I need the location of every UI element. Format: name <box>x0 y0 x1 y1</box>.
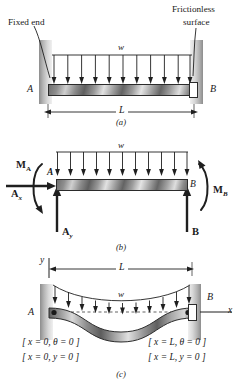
reaction-b-label: B <box>192 227 199 238</box>
support-label-a-left: A <box>27 84 33 94</box>
reaction-ay-symbol: A <box>62 226 70 237</box>
node-label-b-right: B <box>190 180 196 190</box>
load-symbol-c: w <box>117 290 125 299</box>
support-label-a-right: B <box>210 84 216 94</box>
boundary-condition-right-1: [ x = L, θ = 0 ] <box>148 338 206 348</box>
caption-c: (c) <box>0 370 242 379</box>
support-label-c-right: B <box>207 292 213 302</box>
load-symbol-b: w <box>118 141 124 150</box>
boundary-condition-right-2: [ x = L, y = 0 ] <box>148 353 206 363</box>
moment-a-subscript: A <box>26 165 31 173</box>
frictionless-slider-c <box>188 304 197 321</box>
axis-y-label: y <box>40 256 44 266</box>
span-label-c: L <box>116 262 128 272</box>
beam-a <box>48 84 194 96</box>
reaction-ax-symbol: A <box>11 188 19 199</box>
reaction-ax-subscript: x <box>19 194 23 202</box>
reaction-ay-label: Ay <box>62 227 73 240</box>
moment-b-symbol: M <box>213 184 223 195</box>
support-label-c-left: A <box>28 307 34 317</box>
moment-a-label: MA <box>16 160 31 173</box>
beam-b <box>56 179 188 191</box>
moment-b-label: MB <box>213 185 228 198</box>
panel-b: w MA Ax Ay B MB A B (b) <box>0 128 242 254</box>
boundary-condition-left-1: [ x = 0, θ = 0 ] <box>22 338 80 348</box>
frictionless-surface-label-line2: surface <box>183 18 210 27</box>
reaction-ax-label: Ax <box>11 189 22 202</box>
panel-c: y x L w A B [ x = 0, θ = 0 ] [ x = 0, y … <box>0 254 242 388</box>
boundary-condition-left-2: [ x = 0, y = 0 ] <box>22 353 79 363</box>
reaction-ay-subscript: y <box>70 232 73 240</box>
axis-x-label: x <box>228 306 232 316</box>
frictionless-slider-a <box>189 82 198 98</box>
node-label-b-left: A <box>47 168 53 178</box>
panel-a: Fixed end Frictionless surface w A B L (… <box>0 0 242 128</box>
load-symbol-a: w <box>118 43 124 52</box>
panel-c-vectors <box>0 254 242 388</box>
moment-a-symbol: M <box>16 159 26 170</box>
frictionless-surface-label-line1: Frictionless <box>172 5 215 14</box>
caption-b: (b) <box>0 243 242 252</box>
moment-b-subscript: B <box>223 190 228 198</box>
span-label-a: L <box>116 105 128 115</box>
fixed-end-label: Fixed end <box>8 18 45 27</box>
caption-a: (a) <box>0 118 242 127</box>
